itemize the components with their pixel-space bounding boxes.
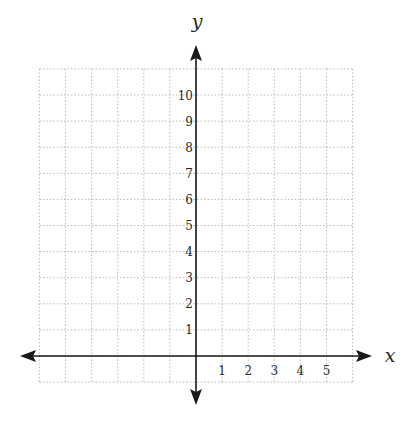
y-tick-label: 10 [178, 89, 193, 103]
y-tick-label: 7 [185, 167, 193, 181]
x-tick-label: 4 [297, 364, 305, 378]
x-tick-labels: 12345 [218, 364, 330, 378]
x-axis-label: x [385, 344, 396, 366]
y-tick-label: 3 [185, 271, 193, 285]
y-tick-label: 9 [185, 115, 193, 129]
y-tick-label: 6 [185, 193, 193, 207]
axes [20, 45, 372, 405]
chart-canvas: 12345 12345678910 x y [0, 0, 416, 423]
coordinate-plane: 12345 12345678910 x y [0, 0, 416, 423]
x-tick-label: 3 [270, 364, 278, 378]
y-tick-labels: 12345678910 [178, 89, 194, 338]
y-tick-label: 8 [185, 141, 193, 155]
x-tick-label: 5 [323, 364, 331, 378]
y-tick-label: 5 [185, 219, 193, 233]
y-tick-label: 4 [185, 245, 193, 259]
y-tick-label: 1 [185, 323, 193, 337]
y-tick-label: 2 [185, 297, 193, 311]
y-axis-label: y [191, 10, 203, 32]
x-tick-label: 1 [218, 364, 226, 378]
x-tick-label: 2 [244, 364, 252, 378]
